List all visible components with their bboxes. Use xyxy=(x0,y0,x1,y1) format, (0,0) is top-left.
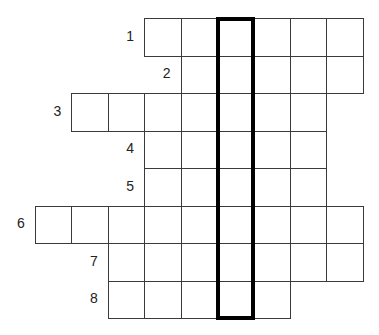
grid-cell-r3-c7[interactable] xyxy=(253,93,291,132)
grid-cell-r2-c8[interactable] xyxy=(290,56,327,94)
clue-number-6: 6 xyxy=(13,215,29,231)
grid-cell-r4-c8[interactable] xyxy=(290,131,327,169)
grid-cell-r3-c2[interactable] xyxy=(71,93,109,132)
grid-cell-r1-c4[interactable] xyxy=(144,18,182,57)
grid-cell-r6-c6[interactable] xyxy=(217,206,254,244)
grid-cell-r3-c5[interactable] xyxy=(181,93,218,132)
grid-cell-r1-c9[interactable] xyxy=(326,18,364,57)
clue-number-4: 4 xyxy=(122,140,138,156)
grid-cell-r8-c7[interactable] xyxy=(253,281,291,319)
grid-cell-r8-c4[interactable] xyxy=(144,281,182,319)
grid-cell-r4-c7[interactable] xyxy=(253,131,291,169)
grid-cell-r6-c5[interactable] xyxy=(181,206,218,244)
clue-number-7: 7 xyxy=(86,253,102,269)
grid-cell-r5-c4[interactable] xyxy=(144,168,182,207)
grid-cell-r6-c7[interactable] xyxy=(253,206,291,244)
grid-cell-r6-c8[interactable] xyxy=(290,206,327,244)
grid-cell-r7-c4[interactable] xyxy=(144,243,182,282)
grid-cell-r3-c4[interactable] xyxy=(144,93,182,132)
grid-cell-r6-c1[interactable] xyxy=(35,206,72,244)
clue-number-1: 1 xyxy=(122,28,138,44)
grid-cell-r5-c7[interactable] xyxy=(253,168,291,207)
grid-cell-r5-c5[interactable] xyxy=(181,168,218,207)
grid-cell-r6-c3[interactable] xyxy=(108,206,145,244)
clue-number-8: 8 xyxy=(86,290,102,306)
grid-cell-r2-c5[interactable] xyxy=(181,56,218,94)
clue-number-5: 5 xyxy=(122,178,138,194)
clue-number-2: 2 xyxy=(159,65,175,81)
grid-cell-r4-c4[interactable] xyxy=(144,131,182,169)
grid-cell-r6-c9[interactable] xyxy=(326,206,364,244)
grid-cell-r1-c5[interactable] xyxy=(181,18,218,57)
grid-cell-r7-c7[interactable] xyxy=(253,243,291,282)
grid-cell-r7-c6[interactable] xyxy=(217,243,254,282)
grid-cell-r2-c9[interactable] xyxy=(326,56,364,94)
crossword-grid: 12345678 xyxy=(0,0,379,335)
grid-cell-r6-c4[interactable] xyxy=(144,206,182,244)
clue-number-3: 3 xyxy=(49,103,65,119)
grid-cell-r3-c6[interactable] xyxy=(217,93,254,132)
grid-cell-r2-c6[interactable] xyxy=(217,56,254,94)
grid-cell-r4-c6[interactable] xyxy=(217,131,254,169)
grid-cell-r8-c3[interactable] xyxy=(108,281,145,319)
grid-cell-r5-c8[interactable] xyxy=(290,168,327,207)
grid-cell-r3-c3[interactable] xyxy=(108,93,145,132)
grid-cell-r4-c5[interactable] xyxy=(181,131,218,169)
grid-cell-r7-c9[interactable] xyxy=(326,243,364,282)
grid-cell-r1-c7[interactable] xyxy=(253,18,291,57)
grid-cell-r8-c6[interactable] xyxy=(217,281,254,319)
grid-cell-r1-c8[interactable] xyxy=(290,18,327,57)
grid-cell-r5-c6[interactable] xyxy=(217,168,254,207)
grid-cell-r6-c2[interactable] xyxy=(71,206,109,244)
grid-cell-r2-c7[interactable] xyxy=(253,56,291,94)
grid-cell-r7-c8[interactable] xyxy=(290,243,327,282)
grid-cell-r7-c5[interactable] xyxy=(181,243,218,282)
grid-cell-r7-c3[interactable] xyxy=(108,243,145,282)
grid-cell-r1-c6[interactable] xyxy=(217,18,254,57)
grid-cell-r3-c8[interactable] xyxy=(290,93,327,132)
grid-cell-r8-c5[interactable] xyxy=(181,281,218,319)
